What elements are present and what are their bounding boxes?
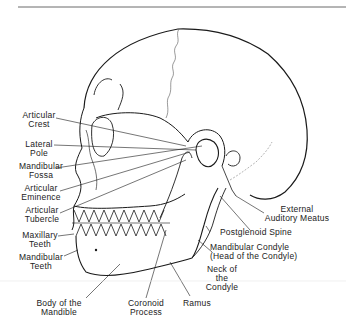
label-body-of-mandible: Body of the Mandible [34, 299, 84, 317]
label-external-auditory-meatus: External Auditory Meatus [262, 205, 332, 223]
label-articular-eminence: Articular Eminence [20, 184, 62, 202]
label-mandibular-fossa: Mandibular Fossa [18, 162, 64, 180]
label-lateral-pole: Lateral Pole [20, 140, 58, 158]
label-articular-crest: Articular Crest [20, 111, 58, 129]
label-coronoid-process: Coronoid Process [124, 299, 168, 317]
label-postglenoid-spine: Postglenoid Spine [220, 228, 292, 237]
label-ramus: Ramus [180, 299, 214, 308]
label-mandibular-teeth: Mandibular Teeth [18, 253, 64, 271]
skull-tmj-diagram: Articular Crest Lateral Pole Mandibular … [0, 0, 346, 325]
label-maxillary-teeth: Maxillary Teeth [20, 231, 60, 249]
label-neck-of-condyle: Neck of the Condyle [204, 265, 240, 292]
label-articular-tubercle: Articular Tubercle [22, 206, 62, 224]
label-mandibular-condyle: Mandibular Condyle (Head of the Condyle) [210, 243, 297, 261]
